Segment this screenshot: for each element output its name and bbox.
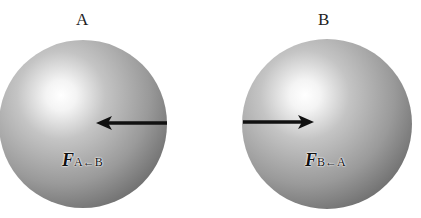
force-symbol: F	[305, 150, 317, 170]
force-subscript: B←A	[317, 155, 346, 169]
sphere-a-label: A	[76, 10, 88, 30]
force-subscript: A←B	[74, 155, 103, 169]
force-label-a: FA←B	[62, 150, 103, 171]
sphere-b	[242, 39, 412, 209]
sphere-b-label: B	[318, 10, 329, 30]
force-label-b: FB←A	[305, 150, 346, 171]
force-symbol: F	[62, 150, 74, 170]
diagram-canvas	[0, 0, 421, 218]
